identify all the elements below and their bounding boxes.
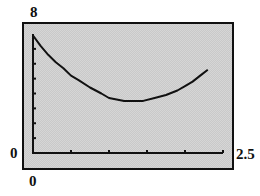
axes — [32, 34, 223, 154]
ymin-label: 0 — [10, 146, 18, 161]
xmin-label: 0 — [29, 174, 37, 189]
ymax-label: 8 — [30, 5, 38, 20]
xmax-label: 2.5 — [236, 147, 255, 162]
graph-plot — [0, 0, 260, 196]
function-curve — [33, 36, 208, 101]
